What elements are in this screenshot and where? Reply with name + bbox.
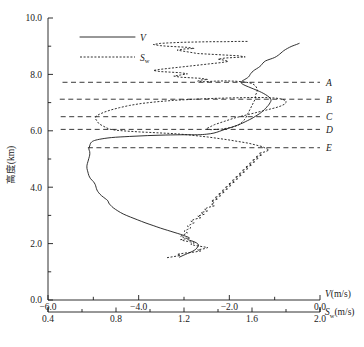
- y-tick-label: 10.0: [25, 13, 42, 23]
- v-tick-label: −2.0: [221, 302, 238, 312]
- sw-axis-tick-labels: 0.40.81.21.62.0: [42, 314, 326, 324]
- y-tick-label: 6.0: [30, 126, 42, 136]
- series-sw-curve: [96, 41, 286, 257]
- reference-line-label: E: [325, 143, 332, 153]
- legend-label-v: V: [140, 33, 147, 43]
- chart-canvas: 0.02.04.06.08.010.0 −6.0−4.0−2.00.0 0.40…: [0, 0, 364, 347]
- legend-label-sw: Sw: [140, 53, 150, 65]
- data-series-layer: [87, 41, 299, 257]
- reference-line-label: A: [325, 78, 332, 88]
- sw-tick-label: 1.2: [178, 314, 190, 324]
- sw-axis-title-unit: (m/s): [334, 307, 354, 318]
- legend-label-sw-subscript: w: [145, 57, 150, 64]
- reference-line-label: D: [325, 125, 333, 135]
- v-tick-label: −4.0: [130, 302, 147, 312]
- sw-axis-title: Sw(m/s): [325, 307, 355, 319]
- y-tick-label: 4.0: [30, 183, 42, 193]
- chart-figure: 0.02.04.06.08.010.0 −6.0−4.0−2.00.0 0.40…: [0, 0, 364, 347]
- reference-line-labels: ABCDE: [325, 78, 333, 153]
- y-axis-ticks: [48, 18, 53, 300]
- y-tick-label: 8.0: [30, 70, 42, 80]
- reference-line-label: B: [326, 95, 332, 105]
- v-axis-title-group: V(m/s): [325, 289, 351, 300]
- y-tick-label: 2.0: [30, 239, 42, 249]
- v-axis-ticks: [48, 295, 320, 300]
- reference-line-label: C: [326, 112, 333, 122]
- series-v-curve: [87, 43, 299, 257]
- sw-axis-title-group: Sw(m/s): [325, 307, 355, 319]
- sw-axis-ticks: [48, 308, 320, 313]
- axes-frame: [48, 18, 320, 312]
- legend: V Sw: [80, 33, 150, 65]
- y-axis-title: 高度(km): [5, 146, 17, 184]
- v-axis-title-unit: (m/s): [331, 289, 351, 300]
- sw-tick-label: 0.4: [42, 314, 54, 324]
- y-axis-tick-labels: 0.02.04.06.08.010.0: [25, 13, 42, 305]
- v-tick-label: −6.0: [39, 302, 56, 312]
- sw-tick-label: 1.6: [246, 314, 258, 324]
- sw-tick-label: 0.8: [110, 314, 122, 324]
- v-axis-title: V(m/s): [325, 289, 351, 300]
